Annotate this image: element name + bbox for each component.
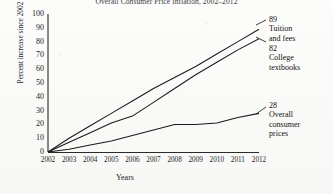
x-tick-label: 2002	[41, 156, 55, 164]
series-lines	[48, 29, 259, 152]
x-tick-label: 2011	[231, 156, 245, 164]
annotation-name-consumer-line2: consumer	[269, 120, 300, 129]
leader-line-consumer	[256, 107, 266, 114]
series-line-tuition-and-fees	[48, 29, 259, 152]
annotation-leader-lines	[256, 20, 266, 114]
annotation-tuition-and-fees: 89 Tuition and fees	[269, 15, 295, 43]
x-axis-label: Years	[0, 173, 250, 182]
x-tick-label: 2007	[146, 156, 160, 164]
leader-line-tuition	[256, 20, 266, 25]
x-tick-label: 2006	[125, 156, 139, 164]
x-tick-label: 2012	[252, 156, 266, 164]
x-tick-label: 2009	[189, 156, 203, 164]
annotation-value-tuition: 89	[269, 15, 295, 24]
x-tick-label: 2004	[83, 156, 97, 164]
annotation-name-textbooks-line1: College	[269, 53, 300, 62]
annotation-overall-consumer-prices: 28 Overall consumer prices	[269, 101, 300, 139]
annotation-value-textbooks: 82	[269, 44, 300, 53]
annotation-name-textbooks-line2: textbooks	[269, 63, 300, 72]
annotation-name-tuition-line2: and fees	[269, 34, 295, 43]
x-tick-label: 2008	[167, 156, 181, 164]
x-tick-label: 2010	[210, 156, 224, 164]
annotation-value-consumer: 28	[269, 101, 300, 110]
x-tick-label: 2005	[104, 156, 118, 164]
series-line-overall-consumer-prices	[48, 113, 259, 152]
x-axis-tick-labels: 2002200320042005200620072008200920102011…	[0, 156, 333, 168]
x-tick-label: 2003	[62, 156, 76, 164]
annotation-college-textbooks: 82 College textbooks	[269, 44, 300, 72]
annotation-name-tuition-line1: Tuition	[269, 24, 295, 33]
chart-figure: Overall Consumer Price Inflation, 2002–2…	[0, 0, 333, 194]
annotation-name-consumer-line1: Overall	[269, 110, 300, 119]
annotation-name-consumer-line3: prices	[269, 129, 300, 138]
series-line-college-textbooks	[48, 39, 259, 152]
